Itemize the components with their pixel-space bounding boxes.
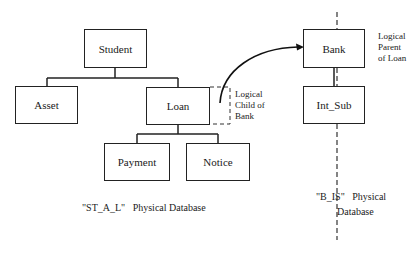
label-line: Logical [235, 89, 265, 100]
right-database-caption-line2: Database [337, 206, 374, 217]
label-line: Bank [235, 111, 265, 122]
label-line: Logical [378, 31, 406, 42]
left-database-caption: "ST_A_L" Physical Database [82, 202, 206, 213]
node-loan: Loan [146, 87, 210, 125]
logical-child-label: Logical Child of Bank [235, 89, 265, 122]
node-label: Bank [322, 43, 345, 55]
node-label: Student [99, 43, 133, 55]
node-student: Student [84, 29, 147, 68]
node-bank: Bank [303, 29, 365, 68]
right-database-caption-line1: "B_IS" Physical [316, 191, 386, 202]
label-line: of Loan [378, 53, 406, 64]
node-label: Asset [34, 99, 58, 111]
logical-parent-label: Logical Parent of Loan [378, 31, 406, 64]
node-label: Loan [167, 100, 190, 112]
node-label: Notice [203, 156, 232, 168]
label-line: Parent [378, 42, 406, 53]
node-asset: Asset [15, 86, 78, 124]
node-label: Int_Sub [317, 99, 352, 111]
node-int-sub: Int_Sub [303, 86, 365, 124]
node-payment: Payment [104, 143, 170, 181]
logical-child-dashed-box [210, 87, 230, 124]
node-label: Payment [118, 156, 157, 168]
label-line: Child of [235, 100, 265, 111]
node-notice: Notice [186, 143, 250, 181]
